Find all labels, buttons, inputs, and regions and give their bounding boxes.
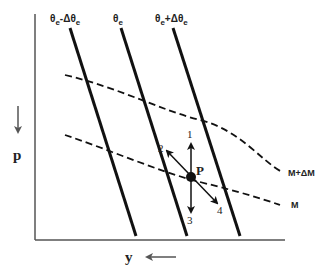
- p-axis-label: p: [13, 147, 21, 163]
- m-label: M: [291, 200, 299, 210]
- y-axis-label: y: [125, 249, 133, 265]
- diagram-canvas: p y θe-Δθe θe θe+Δθe M+ΔM M 1 2 3 4 P: [0, 0, 328, 274]
- point-p-marker: [186, 172, 196, 182]
- theta-plus-line: [173, 28, 240, 236]
- arrow-2-label: 2: [158, 142, 164, 154]
- m-plus-delta-m-label: M+ΔM: [288, 168, 315, 178]
- theta-line: [121, 28, 187, 236]
- theta-minus-label: θe-Δθe: [50, 13, 81, 27]
- point-p-label: P: [196, 163, 204, 178]
- theta-plus-label: θe+Δθe: [155, 13, 188, 27]
- theta-label: θe: [113, 13, 123, 27]
- theta-minus-line: [70, 28, 136, 236]
- arrow-2-icon: [167, 151, 191, 176]
- arrow-3-label: 3: [187, 214, 193, 226]
- arrow-1-label: 1: [187, 128, 193, 140]
- arrow-4-label: 4: [217, 204, 223, 216]
